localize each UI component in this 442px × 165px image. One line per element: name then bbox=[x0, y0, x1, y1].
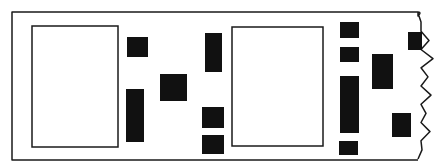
frame-1 bbox=[32, 26, 118, 147]
block-10 bbox=[339, 141, 358, 155]
block-3 bbox=[160, 74, 187, 101]
block-2 bbox=[126, 89, 144, 142]
block-1 bbox=[127, 37, 148, 57]
tape-diagram bbox=[0, 0, 442, 165]
block-11 bbox=[372, 54, 393, 89]
block-8 bbox=[340, 47, 359, 62]
block-5 bbox=[202, 107, 224, 128]
block-7 bbox=[340, 22, 359, 38]
block-9 bbox=[340, 76, 359, 133]
block-6 bbox=[202, 135, 224, 154]
block-13 bbox=[408, 32, 422, 50]
frame-2 bbox=[232, 27, 323, 146]
block-12 bbox=[392, 113, 411, 137]
block-4 bbox=[205, 33, 222, 72]
